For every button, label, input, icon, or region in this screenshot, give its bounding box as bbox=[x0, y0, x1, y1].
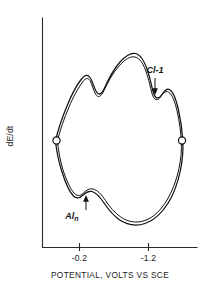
plot-canvas: -0.2 -1.2 Cl-1 Aln bbox=[0, 0, 220, 294]
x-tick-label-2: -1.2 bbox=[141, 253, 157, 263]
annotation-cl-1-label: Cl-1 bbox=[146, 65, 163, 75]
right-crossover-marker bbox=[178, 137, 185, 144]
annotation-al-n-subscript: n bbox=[74, 215, 78, 222]
x-axis-ticks: -0.2 -1.2 bbox=[72, 243, 157, 263]
left-crossover-marker bbox=[53, 137, 60, 144]
figure-container: -0.2 -1.2 Cl-1 Aln dE/dt POTE bbox=[0, 0, 220, 294]
x-tick-label-1: -0.2 bbox=[72, 253, 88, 263]
annotation-al-n-arrow-head bbox=[83, 195, 89, 202]
y-axis-title: dE/dt bbox=[5, 113, 15, 159]
loop-trace-outer bbox=[56, 53, 183, 225]
annotation-al-n-base: Al bbox=[64, 211, 74, 221]
x-axis-title: POTENTIAL, VOLTS VS SCE bbox=[0, 270, 220, 280]
annotation-al-n-label: Aln bbox=[64, 211, 78, 222]
hysteresis-loop bbox=[56, 53, 183, 225]
annotation-al-n: Aln bbox=[64, 195, 89, 222]
